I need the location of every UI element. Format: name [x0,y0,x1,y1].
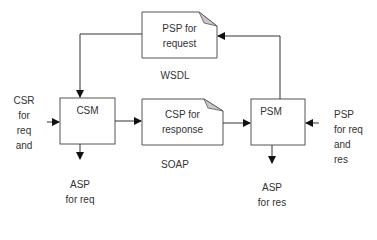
csp-response-line1: CSP for [142,108,223,121]
arrow-psp-to-csm [80,34,142,97]
csm-label: CSM [60,104,115,117]
psp-request-label: PSP for request [142,22,217,50]
asp-res-line-1: ASP [252,181,292,196]
asp-res-label: ASP for res [252,181,292,211]
csp-response-label: CSP for response [142,108,223,136]
asp-req-label: ASP for req [60,178,100,208]
psp-request-line1: PSP for [142,22,217,35]
psp-request-line2: request [142,37,217,50]
psp-line-3: and [334,138,377,153]
asp-req-line-2: for req [60,193,100,208]
csr-line-4: and [12,139,36,154]
wsdl-label: WSDL [150,69,200,82]
psp-line-1: PSP [334,108,377,123]
asp-res-line-2: for res [252,196,292,211]
csr-input-label: CSR for req and [12,94,36,154]
soap-label: SOAP [150,158,200,171]
csr-line-1: CSR [12,94,36,109]
arrow-psm-to-psp [218,36,280,99]
csp-response-line2: response [142,123,223,136]
psp-input-label: PSP for req and res [334,108,377,168]
csr-line-2: for [12,109,36,124]
psp-line-4: res [334,153,377,168]
csr-line-3: req [12,124,36,139]
psm-label: PSM [251,105,291,118]
asp-req-line-1: ASP [60,178,100,193]
psp-line-2: for req [334,123,377,138]
